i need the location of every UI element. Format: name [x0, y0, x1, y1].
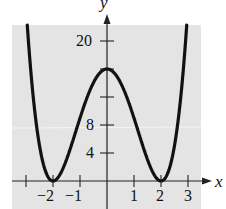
- x-tick-label-1: 1: [130, 188, 138, 204]
- x-axis-label: x: [215, 173, 223, 190]
- y-axis-label: y: [100, 0, 108, 11]
- x-tick-label-neg2: −2: [37, 188, 54, 204]
- x-axis-arrow-icon: [202, 178, 212, 185]
- y-tick-label-8: 8: [86, 117, 94, 133]
- x-tick-label-neg1: −1: [65, 188, 82, 204]
- x-tick-label-2: 2: [156, 188, 164, 204]
- function-plot: [0, 0, 226, 209]
- x-tick-label-3: 3: [184, 188, 192, 204]
- y-tick-label-4: 4: [86, 145, 94, 161]
- y-axis-arrow-icon: [104, 14, 111, 24]
- y-tick-label-20: 20: [76, 33, 92, 49]
